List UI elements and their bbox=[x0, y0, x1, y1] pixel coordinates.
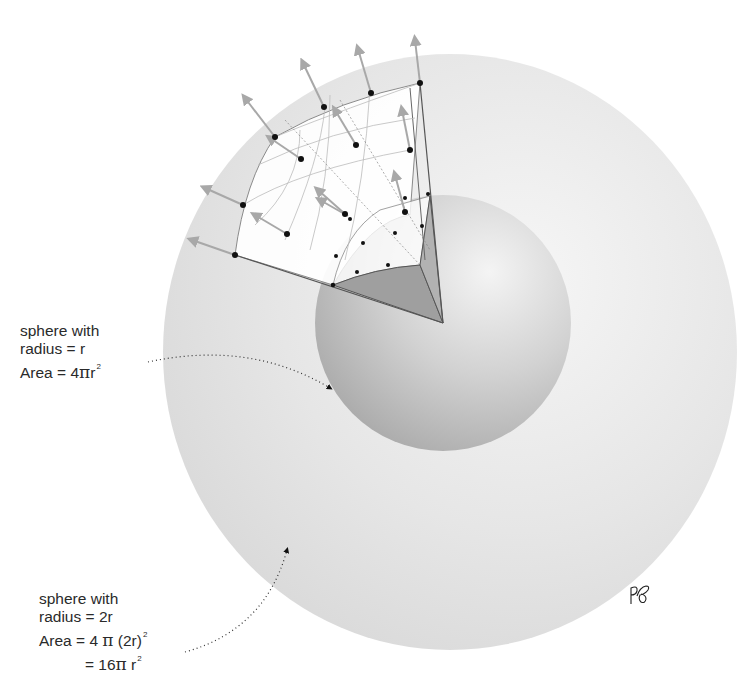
pi-symbol: π bbox=[116, 654, 127, 674]
outer-label-area: Area = 4 π (2r)2 bbox=[39, 626, 147, 650]
outer-label-line2: radius = 2r bbox=[39, 608, 147, 626]
outer-label-area-simplified: = 16π r2 bbox=[39, 650, 147, 674]
area-suffix: r bbox=[90, 364, 95, 381]
exponent: 2 bbox=[143, 630, 147, 639]
inner-sphere-label: sphere with radius = r Area = 4πr2 bbox=[20, 322, 101, 382]
signature-icon bbox=[628, 584, 654, 606]
inner-label-line1: sphere with bbox=[20, 322, 101, 340]
pi-symbol: π bbox=[102, 630, 113, 650]
outer-label-line1: sphere with bbox=[39, 590, 147, 608]
area-suffix: r bbox=[127, 656, 136, 673]
pi-symbol: π bbox=[79, 362, 90, 382]
sphere-diagram bbox=[0, 0, 741, 680]
outer-sphere-label: sphere with radius = 2r Area = 4 π (2r)2… bbox=[39, 590, 147, 674]
inner-label-area: Area = 4πr2 bbox=[20, 358, 101, 382]
area-prefix: Area = 4 bbox=[39, 632, 102, 649]
area-prefix: Area = 4 bbox=[20, 364, 79, 381]
area-suffix: (2r) bbox=[114, 632, 142, 649]
exponent: 2 bbox=[96, 362, 100, 371]
inner-label-line2: radius = r bbox=[20, 340, 101, 358]
exponent: 2 bbox=[137, 654, 141, 663]
area-prefix: = 16 bbox=[85, 656, 116, 673]
